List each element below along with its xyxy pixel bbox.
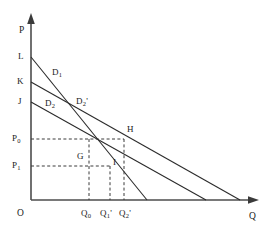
quantity-tick-q1-prime: Q1' xyxy=(100,209,112,218)
curve-label-d1-sub: 1 xyxy=(59,71,62,78)
price-axis-arrow-icon xyxy=(27,13,35,24)
curve-label-d2-base: D xyxy=(45,98,52,108)
intercept-label-j: J xyxy=(18,97,22,106)
quantity-tick-q2-prime: Q2' xyxy=(119,209,131,218)
price-tick-p0: P0 xyxy=(12,134,21,143)
price-axis-label: P xyxy=(19,26,24,36)
quantity-tick-q0: Q0 xyxy=(81,209,91,218)
quantity-tick-q2-prime: ' xyxy=(129,208,131,218)
point-label-i: I xyxy=(113,158,116,167)
curve-label-d2p-base: D xyxy=(76,96,83,106)
demand-curves xyxy=(31,57,240,200)
origin-label: O xyxy=(17,209,24,219)
price-axis xyxy=(27,13,35,200)
quantity-tick-q0-sub: 0 xyxy=(88,212,91,219)
quantity-tick-q1-base: Q xyxy=(100,208,107,218)
guide-lines-p1 xyxy=(31,166,110,200)
demand-curve-d2 xyxy=(31,102,206,200)
economics-demand-diagram: P Q O L K J P0 P1 Q0 Q1' Q2' D1 D2 D2' G… xyxy=(0,0,273,238)
curve-label-d2: D2 xyxy=(45,99,55,108)
curve-label-d2-sub: 2 xyxy=(52,102,55,109)
point-label-h: H xyxy=(127,125,134,134)
quantity-tick-q2-sub: 2 xyxy=(126,212,129,219)
curve-label-d2p-sub: 2 xyxy=(83,100,86,107)
price-tick-p0-sub: 0 xyxy=(17,137,20,144)
diagram-canvas xyxy=(0,0,273,238)
quantity-axis-label: Q xyxy=(249,212,256,222)
demand-curve-d2-prime xyxy=(31,82,240,200)
price-tick-p1-sub: 1 xyxy=(17,164,20,171)
quantity-axis-arrow-icon xyxy=(248,196,259,204)
intercept-label-l: L xyxy=(18,52,24,61)
quantity-tick-q1-sub: 1 xyxy=(107,212,110,219)
curve-label-d1-base: D xyxy=(52,67,59,77)
intercept-label-k: K xyxy=(17,77,24,86)
quantity-tick-q2-base: Q xyxy=(119,208,126,218)
curve-label-d2-prime: D2' xyxy=(76,97,88,106)
guide-lines-p0 xyxy=(31,139,124,200)
curve-label-d2p-prime: ' xyxy=(86,96,88,106)
quantity-tick-q0-base: Q xyxy=(81,208,88,218)
curve-label-d1: D1 xyxy=(52,68,62,77)
point-label-g: G xyxy=(77,152,84,161)
price-tick-p1: P1 xyxy=(12,161,21,170)
quantity-tick-q1-prime: ' xyxy=(110,208,112,218)
